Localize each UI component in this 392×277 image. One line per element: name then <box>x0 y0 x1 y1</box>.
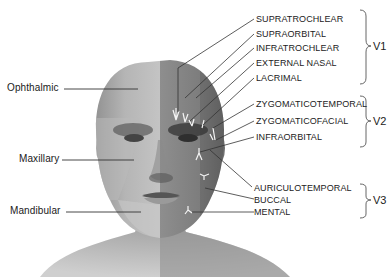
branch-label-lacrimal: LACRIMAL <box>256 73 302 83</box>
branch-label-supraorbital: SUPRAORBITAL <box>256 29 326 39</box>
group-label-v3: V3 <box>373 194 386 206</box>
group-label-v2: V2 <box>373 115 386 127</box>
division-label-maxillary: Maxillary <box>19 153 59 164</box>
branch-label-supratrochlear: SUPRATROCHLEAR <box>256 14 343 24</box>
face-illustration <box>0 0 392 277</box>
branch-label-zygomaticotemporal: ZYGOMATICOTEMPORAL <box>256 99 367 109</box>
division-label-mandibular: Mandibular <box>10 205 60 216</box>
branch-label-infratrochlear: INFRATROCHLEAR <box>256 43 339 53</box>
branch-label-external-nasal: EXTERNAL NASAL <box>256 58 337 68</box>
branch-label-auriculotemporal: AURICULOTEMPORAL <box>254 183 352 193</box>
group-label-v1: V1 <box>373 40 386 52</box>
branch-label-infraorbital: INFRAORBITAL <box>256 132 322 142</box>
branch-label-zygomaticofacial: ZYGOMATICOFACIAL <box>256 116 348 126</box>
group-braces <box>360 10 371 218</box>
branch-label-mental: MENTAL <box>254 207 290 217</box>
head <box>90 55 230 245</box>
trigeminal-diagram: Ophthalmic Maxillary Mandibular SUPRATRO… <box>0 0 392 277</box>
branch-label-buccal: BUCCAL <box>254 195 291 205</box>
division-label-ophthalmic: Ophthalmic <box>7 82 59 93</box>
